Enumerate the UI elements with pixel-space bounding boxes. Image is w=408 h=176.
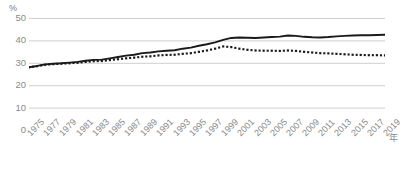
- chart-container: % 50403020100 19751977197919811983198519…: [0, 0, 408, 176]
- data-point: [226, 46, 228, 48]
- data-point: [254, 49, 256, 51]
- data-point: [291, 50, 293, 52]
- data-point: [263, 50, 265, 52]
- data-point: [186, 52, 188, 54]
- data-point: [348, 53, 350, 55]
- data-point: [323, 52, 325, 54]
- data-point: [109, 59, 111, 61]
- data-point: [174, 54, 176, 56]
- data-point: [141, 56, 143, 58]
- data-point: [93, 60, 95, 62]
- data-point: [190, 52, 192, 54]
- data-point: [352, 54, 354, 56]
- data-point: [178, 53, 180, 55]
- data-point: [279, 50, 281, 52]
- data-point: [105, 60, 107, 62]
- data-point: [85, 61, 87, 63]
- data-point: [307, 51, 309, 53]
- data-point: [234, 47, 236, 49]
- data-point: [117, 58, 119, 60]
- data-point: [271, 50, 273, 52]
- data-point: [319, 52, 321, 54]
- data-point: [275, 50, 277, 52]
- data-point: [311, 51, 313, 53]
- data-point: [246, 49, 248, 51]
- data-point: [40, 64, 42, 66]
- data-point: [259, 50, 261, 52]
- data-point: [238, 48, 240, 50]
- data-point: [267, 50, 269, 52]
- data-point: [339, 53, 341, 55]
- data-point: [170, 54, 172, 56]
- data-point: [343, 53, 345, 55]
- data-point: [368, 54, 370, 56]
- y-axis: 50403020100: [0, 0, 26, 176]
- data-point: [242, 48, 244, 50]
- data-point: [299, 50, 301, 52]
- data-point: [97, 60, 99, 62]
- data-point: [218, 47, 220, 49]
- data-point: [206, 49, 208, 51]
- data-point: [283, 50, 285, 52]
- data-point: [194, 51, 196, 53]
- data-point: [157, 54, 159, 56]
- data-point: [68, 62, 70, 64]
- data-point: [56, 63, 58, 65]
- data-point: [356, 54, 358, 56]
- data-point: [315, 52, 317, 54]
- data-point: [380, 54, 382, 56]
- data-point: [72, 62, 74, 64]
- data-point: [230, 46, 232, 48]
- data-point: [48, 63, 50, 65]
- data-point: [295, 50, 297, 52]
- data-point: [364, 54, 366, 56]
- data-point: [153, 55, 155, 57]
- data-point: [327, 52, 329, 54]
- gridlines: [29, 19, 385, 131]
- data-point: [182, 53, 184, 55]
- data-point: [76, 62, 78, 64]
- data-point: [149, 55, 151, 57]
- data-point: [29, 66, 30, 68]
- data-point: [60, 63, 62, 65]
- plot-area: [29, 18, 385, 130]
- data-point: [376, 54, 378, 56]
- y-axis-tick-label: 50: [15, 13, 26, 23]
- data-point: [121, 58, 123, 60]
- data-point: [210, 49, 212, 51]
- data-point: [129, 57, 131, 59]
- data-point: [101, 60, 103, 62]
- data-point: [113, 59, 115, 61]
- data-point: [214, 48, 216, 50]
- data-point: [335, 53, 337, 55]
- x-axis-unit-label: 年: [389, 133, 398, 143]
- data-point: [64, 62, 66, 64]
- y-axis-tick-label: 20: [15, 80, 26, 90]
- y-axis-tick-label: 30: [15, 58, 26, 68]
- data-point: [202, 50, 204, 52]
- data-point: [36, 65, 38, 67]
- data-point: [52, 63, 54, 65]
- data-point: [89, 61, 91, 63]
- data-point: [165, 54, 167, 56]
- data-point: [287, 49, 289, 51]
- data-point: [198, 51, 200, 53]
- y-axis-tick-label: 0: [21, 125, 26, 135]
- data-point: [250, 49, 252, 51]
- data-point: [145, 55, 147, 57]
- data-point: [133, 57, 135, 59]
- data-point: [331, 53, 333, 55]
- data-point: [32, 66, 34, 68]
- data-point: [44, 64, 46, 66]
- data-point: [372, 54, 374, 56]
- data-point: [222, 45, 224, 47]
- data-point: [384, 54, 385, 56]
- data-point: [360, 54, 362, 56]
- data-point: [161, 54, 163, 56]
- data-point: [137, 56, 139, 58]
- data-point: [81, 61, 83, 63]
- y-axis-tick-label: 10: [15, 103, 26, 113]
- data-point: [303, 51, 305, 53]
- y-axis-tick-label: 40: [15, 35, 26, 45]
- data-point: [125, 57, 127, 59]
